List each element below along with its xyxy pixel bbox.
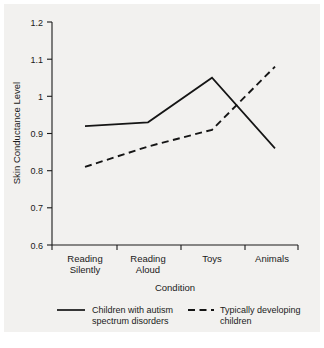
line-chart: Skin Conductance Level 0.6 0.7 0.8 0.9 1… bbox=[0, 0, 324, 348]
y-tick-label: 0.8 bbox=[30, 166, 43, 176]
y-tick-label: 0.7 bbox=[30, 203, 43, 213]
y-tick-label: 1.1 bbox=[30, 55, 43, 65]
x-category-label: Animals bbox=[255, 253, 289, 264]
legend-label-autism-line2: spectrum disorders bbox=[92, 316, 169, 326]
legend: Children with autism spectrum disorders … bbox=[57, 305, 301, 326]
x-axis-ticks bbox=[52, 245, 298, 250]
x-category-label: Reading bbox=[130, 253, 165, 264]
y-tick-label: 1.2 bbox=[30, 18, 43, 28]
y-tick-label: 1 bbox=[38, 92, 43, 102]
y-axis-title: Skin Conductance Level bbox=[11, 82, 22, 184]
figure-container: Skin Conductance Level 0.6 0.7 0.8 0.9 1… bbox=[0, 0, 324, 348]
x-axis-category-labels: Reading Silently Reading Aloud Toys Anim… bbox=[67, 253, 289, 275]
x-axis-title: Condition bbox=[155, 282, 195, 293]
series-line-autism bbox=[85, 78, 275, 149]
y-tick-label: 0.9 bbox=[30, 129, 43, 139]
x-category-label: Reading bbox=[67, 253, 102, 264]
x-category-label: Toys bbox=[202, 253, 222, 264]
legend-label-autism: Children with autism bbox=[92, 305, 173, 315]
legend-label-typical-line2: children bbox=[220, 316, 252, 326]
legend-label-typical: Typically developing bbox=[220, 305, 301, 315]
y-axis-ticks: 0.6 0.7 0.8 0.9 1 1.1 1.2 bbox=[30, 18, 52, 251]
y-tick-label: 0.6 bbox=[30, 241, 43, 251]
x-category-label-line2: Aloud bbox=[136, 264, 160, 275]
x-category-label-line2: Silently bbox=[70, 264, 101, 275]
